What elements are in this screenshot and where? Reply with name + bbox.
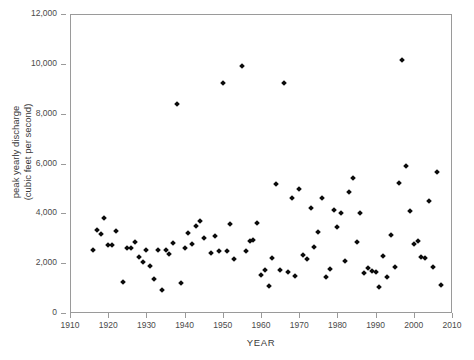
x-axis-tick-mark: [70, 313, 71, 318]
x-axis-tick-label: 1940: [165, 320, 205, 330]
x-axis-tick-label: 1980: [317, 320, 357, 330]
x-axis-tick-mark: [299, 313, 300, 318]
x-axis-tick-label: 1920: [88, 320, 128, 330]
x-axis-tick-mark: [414, 313, 415, 318]
x-axis-tick-label: 1930: [126, 320, 166, 330]
x-axis: 1910192019301940195019601970198019902000…: [0, 0, 474, 360]
x-axis-tick-label: 1990: [356, 320, 396, 330]
x-axis-tick-label: 2000: [394, 320, 434, 330]
x-axis-tick-label: 1960: [241, 320, 281, 330]
x-axis-tick-mark: [185, 313, 186, 318]
x-axis-tick-mark: [452, 313, 453, 318]
x-axis-tick-mark: [376, 313, 377, 318]
x-axis-tick-mark: [146, 313, 147, 318]
x-axis-tick-label: 1910: [50, 320, 90, 330]
x-axis-tick-label: 1950: [203, 320, 243, 330]
x-axis-tick-label: 2010: [432, 320, 472, 330]
x-axis-tick-mark: [337, 313, 338, 318]
x-axis-tick-label: 1970: [279, 320, 319, 330]
x-axis-tick-mark: [223, 313, 224, 318]
x-axis-tick-mark: [108, 313, 109, 318]
scatter-chart-figure: 02,0004,0006,0008,00010,00012,000 peak y…: [0, 0, 474, 360]
x-axis-tick-mark: [261, 313, 262, 318]
x-axis-title: YEAR: [70, 337, 452, 348]
